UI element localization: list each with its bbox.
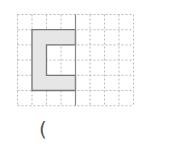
- answer-parenthesis: (: [39, 119, 47, 139]
- symmetry-grid-figure: [0, 0, 192, 146]
